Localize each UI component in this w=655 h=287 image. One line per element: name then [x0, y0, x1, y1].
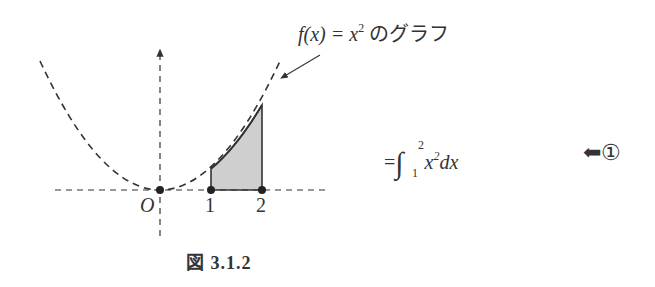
integral-sign: ∫	[395, 146, 403, 179]
lower-limit: 1	[412, 166, 418, 181]
origin-point	[156, 186, 164, 194]
origin-label: O	[140, 194, 154, 217]
point-x1	[207, 186, 215, 194]
tick-label-2: 2	[256, 194, 266, 217]
function-label-prefix: f(x) = x	[298, 23, 358, 45]
equation-marker: ⬅①	[583, 140, 621, 166]
left-arrow-icon: ⬅	[583, 140, 601, 165]
integral-expression: =∫ 2 1 x2dx	[384, 142, 458, 176]
upper-limit: 2	[418, 138, 424, 153]
function-label-suffix: のグラフ	[364, 23, 449, 45]
equals-sign: =	[384, 151, 395, 173]
point-x2	[258, 186, 266, 194]
differential: dx	[439, 151, 458, 173]
label-leader-arrow	[283, 55, 320, 77]
circled-number: ①	[601, 140, 621, 165]
function-label: f(x) = x2 のグラフ	[298, 18, 449, 47]
tick-label-1: 1	[205, 194, 215, 217]
figure-caption: 図 3.1.2	[186, 248, 252, 274]
